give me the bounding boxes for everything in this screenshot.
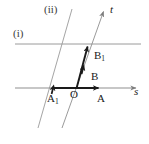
label-point-A: A [97, 93, 105, 104]
label-point-B1-sub: 1 [101, 54, 105, 63]
label-axis-t: t [110, 4, 113, 15]
label-point-A1-sub: 1 [55, 97, 59, 106]
label-axis-s: s [134, 86, 138, 97]
figure-root: (ii) (i) t s B1 B A1 O A [0, 0, 149, 144]
label-line-i: (i) [13, 28, 23, 39]
label-point-B: B [91, 71, 98, 82]
label-point-O: O [70, 89, 78, 100]
label-point-B1: B1 [94, 50, 105, 61]
label-line-ii: (ii) [44, 4, 57, 15]
label-point-A1: A1 [47, 93, 59, 104]
diagram-canvas [0, 0, 149, 144]
line-ii [38, 9, 72, 128]
label-point-A1-main: A [47, 92, 55, 104]
segment-OB1-bold [77, 47, 88, 89]
